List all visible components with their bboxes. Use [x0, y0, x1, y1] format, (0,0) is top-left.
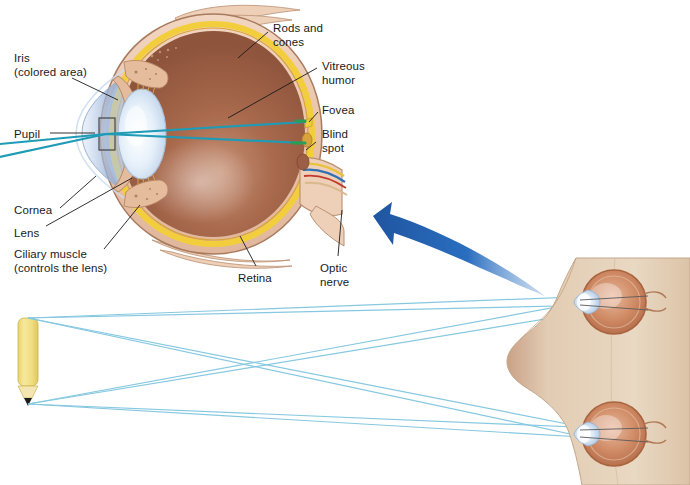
label-iris: Iris (colored area): [14, 52, 87, 79]
ray-tip-to-lower-eye: [28, 404, 598, 428]
label-lens: Lens: [14, 227, 39, 241]
label-ciliary-muscle: Ciliary muscle (controls the lens): [14, 248, 107, 275]
blind-spot: [302, 133, 312, 147]
head-cross-section: [507, 258, 690, 485]
label-pupil: Pupil: [14, 128, 40, 142]
label-vitreous-humor: Vitreous humor: [322, 60, 365, 87]
ray-tip-to-lower-eye2: [28, 404, 598, 438]
pencil-object: [18, 318, 38, 406]
label-rods-and-cones: Rods and cones: [273, 22, 323, 49]
label-retina: Retina: [238, 272, 272, 286]
eye-diagram-figure: Iris (colored area) Pupil Cornea Lens Ci…: [0, 0, 690, 485]
label-cornea: Cornea: [14, 204, 52, 218]
magnify-arrow: [373, 202, 545, 296]
lens-highlight: [125, 106, 147, 146]
optic-nerve: [297, 154, 347, 246]
label-blind-spot: Blind spot: [322, 128, 348, 155]
ray-top-to-lower-eye2: [28, 318, 598, 440]
leader-cornea: [60, 176, 96, 208]
label-fovea: Fovea: [322, 104, 354, 118]
leader-ciliary: [104, 205, 140, 249]
label-optic-nerve: Optic nerve: [320, 262, 349, 289]
